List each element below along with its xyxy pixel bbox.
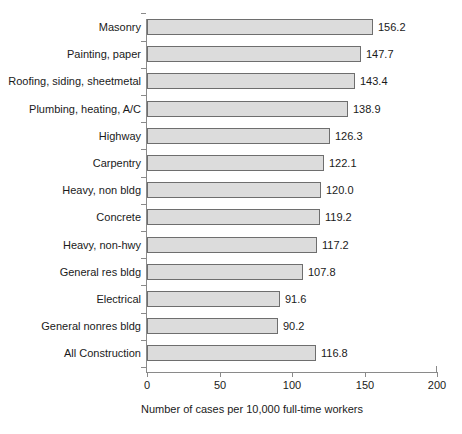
y-axis-tick (141, 258, 146, 259)
x-axis-tick (437, 372, 438, 377)
x-axis-tick (365, 372, 366, 377)
y-axis-tick (141, 204, 146, 205)
bar (147, 155, 324, 171)
bar-value-label: 120.0 (326, 181, 354, 199)
bar-row: Plumbing, heating, A/C138.9 (0, 101, 462, 117)
bar (147, 128, 330, 144)
bar-value-label: 116.8 (321, 344, 348, 362)
bar (147, 264, 303, 280)
bar (147, 237, 317, 253)
bar (147, 73, 355, 89)
category-label: All Construction (64, 344, 141, 362)
y-axis-tick (141, 340, 146, 341)
x-axis-tick-label: 0 (144, 379, 150, 392)
y-axis-tick (141, 13, 146, 14)
bar-value-label: 119.2 (325, 208, 352, 226)
x-axis-title: Number of cases per 10,000 full-time wor… (0, 402, 462, 416)
y-axis-tick (141, 177, 146, 178)
bar-value-label: 117.2 (322, 236, 349, 254)
bar (147, 318, 278, 334)
bar-value-label: 138.9 (353, 100, 381, 118)
category-label: Masonry (99, 18, 141, 36)
x-axis-tick (147, 372, 148, 377)
bar-row: Roofing, siding, sheetmetal143.4 (0, 73, 462, 89)
x-axis-title-text: Number of cases per 10,000 full-time wor… (99, 402, 363, 416)
category-label: Electrical (96, 290, 141, 308)
y-axis-tick (141, 231, 146, 232)
bar-value-label: 90.2 (283, 317, 304, 335)
x-axis-tick-label: 100 (283, 379, 301, 392)
y-axis-tick (141, 95, 146, 96)
category-label: Concrete (96, 208, 141, 226)
bar-value-label: 143.4 (360, 72, 388, 90)
bar-row: General nonres bldg90.2 (0, 318, 462, 334)
y-axis-tick (141, 313, 146, 314)
bar-row: Concrete119.2 (0, 209, 462, 225)
bar-row: Masonry156.2 (0, 19, 462, 35)
bar-row: Painting, paper147.7 (0, 46, 462, 62)
bar (147, 19, 373, 35)
bar-row: Carpentry122.1 (0, 155, 462, 171)
x-axis-tick (220, 372, 221, 377)
bar-row: All Construction116.8 (0, 345, 462, 361)
bar-value-label: 156.2 (378, 18, 406, 36)
bar-row: Heavy, non-hwy117.2 (0, 237, 462, 253)
bar (147, 46, 361, 62)
x-axis-tick (292, 372, 293, 377)
bar (147, 291, 280, 307)
category-label: Heavy, non bldg (62, 181, 141, 199)
y-axis-tick (141, 285, 146, 286)
x-axis-tick-label: 50 (214, 379, 226, 392)
bar (147, 209, 320, 225)
plot-area: 050100150200 Masonry156.2Painting, paper… (0, 0, 462, 434)
category-label: Carpentry (93, 154, 141, 172)
category-label: Plumbing, heating, A/C (29, 100, 141, 118)
x-axis-tick-label: 200 (428, 379, 446, 392)
bar-row: General res bldg107.8 (0, 264, 462, 280)
category-label: Heavy, non-hwy (63, 236, 141, 254)
bar-row: Electrical91.6 (0, 291, 462, 307)
bar (147, 182, 321, 198)
y-axis-tick (141, 122, 146, 123)
bar-value-label: 91.6 (285, 290, 306, 308)
y-axis-tick (141, 68, 146, 69)
bar-value-label: 126.3 (335, 127, 363, 145)
category-label: Roofing, siding, sheetmetal (8, 72, 141, 90)
bar-row: Heavy, non bldg120.0 (0, 182, 462, 198)
bar (147, 345, 316, 361)
category-label: Highway (99, 127, 141, 145)
y-axis-tick (141, 149, 146, 150)
bar-value-label: 147.7 (366, 45, 394, 63)
y-axis-tick (141, 367, 146, 368)
bar-value-label: 107.8 (308, 263, 336, 281)
category-label: Painting, paper (67, 45, 141, 63)
category-label: General nonres bldg (41, 317, 141, 335)
category-label: General res bldg (60, 263, 141, 281)
bar-chart: 050100150200 Masonry156.2Painting, paper… (0, 0, 462, 434)
bar-row: Highway126.3 (0, 128, 462, 144)
bar (147, 101, 348, 117)
y-axis-tick (141, 41, 146, 42)
bar-value-label: 122.1 (329, 154, 357, 172)
x-axis-tick-label: 150 (356, 379, 374, 392)
